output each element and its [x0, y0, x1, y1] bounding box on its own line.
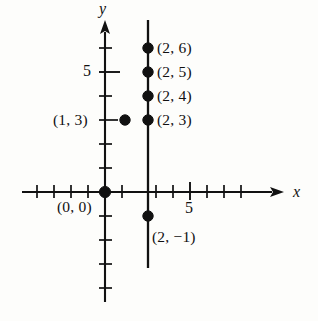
point-2-3	[143, 115, 153, 125]
point-2-4	[143, 91, 153, 101]
x-axis-arrowhead	[270, 187, 284, 197]
point-label-2-5: (2, 5)	[157, 64, 192, 80]
y-tick-label-5: 5	[83, 63, 91, 79]
point-label-1-3: (1, 3)	[53, 112, 88, 128]
coordinate-plane-figure: y x 5 5 (2, 6) (2, 5) (2, 4) (2, 3) (2, …	[0, 0, 318, 321]
y-axis-arrowhead	[100, 20, 110, 34]
x-axis-label: x	[293, 184, 300, 200]
point-1-3	[120, 115, 130, 125]
point-2-neg1	[143, 211, 153, 221]
point-label-2-neg1: (2, −1)	[152, 229, 196, 245]
point-label-2-6: (2, 6)	[157, 40, 192, 56]
x-tick-label-5: 5	[185, 200, 193, 216]
point-label-2-3: (2, 3)	[157, 112, 192, 128]
point-2-5	[143, 67, 153, 77]
point-label-2-4: (2, 4)	[157, 88, 192, 104]
point-label-0-0: (0, 0)	[57, 199, 92, 215]
point-0-0	[99, 186, 110, 197]
y-axis-label: y	[99, 1, 106, 17]
point-2-6	[143, 43, 153, 53]
